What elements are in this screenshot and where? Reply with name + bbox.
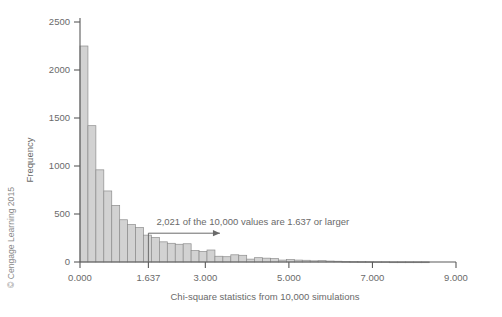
histogram-bar — [144, 235, 152, 262]
x-axis-title: Chi-square statistics from 10,000 simula… — [170, 291, 359, 302]
histogram-bar — [223, 257, 231, 262]
histogram-bar — [207, 250, 215, 262]
y-axis-title: Frequency — [24, 137, 35, 182]
histogram-bar — [120, 220, 128, 262]
histogram-bar — [128, 225, 136, 262]
annotation-label: 2,021 of the 10,000 values are 1.637 or … — [156, 216, 349, 227]
histogram-bar — [96, 170, 104, 262]
histogram-bar — [183, 244, 191, 262]
histogram-bar — [175, 244, 183, 262]
histogram-bar — [80, 46, 88, 262]
x-tick-label: 5.000 — [277, 272, 301, 283]
y-tick-label: 2000 — [49, 64, 70, 75]
histogram-bar — [215, 256, 223, 262]
y-tick-label: 2500 — [49, 16, 70, 27]
y-tick-label: 0 — [65, 256, 70, 267]
x-tick-label: 7.000 — [361, 272, 385, 283]
histogram-bar — [136, 227, 144, 262]
histogram-bar — [231, 255, 239, 262]
histogram-bar — [88, 126, 96, 262]
x-tick-label: 1.637 — [136, 272, 160, 283]
annotation-arrowhead — [213, 230, 220, 236]
x-axis-ticks: 0.0001.6373.0005.0007.0009.000 — [68, 262, 468, 283]
histogram-bar — [112, 205, 120, 262]
histogram-bar — [191, 250, 199, 262]
y-tick-label: 1500 — [49, 112, 70, 123]
chi-square-histogram-figure: © Cengage Learning 2015 Frequency Chi-sq… — [0, 0, 502, 317]
histogram-bar — [255, 258, 263, 262]
histogram-bar — [167, 243, 175, 262]
x-tick-label: 3.000 — [193, 272, 217, 283]
y-tick-label: 500 — [54, 208, 70, 219]
chart-svg: © Cengage Learning 2015 Frequency Chi-sq… — [0, 0, 502, 317]
bars-group — [80, 46, 429, 263]
histogram-bar — [263, 258, 271, 262]
histogram-bar — [159, 242, 167, 262]
copyright-credit: © Cengage Learning 2015 — [6, 187, 16, 288]
y-axis-ticks: 05001000150020002500 — [49, 16, 80, 267]
histogram-bar — [239, 255, 247, 262]
y-tick-label: 1000 — [49, 160, 70, 171]
histogram-bar — [199, 251, 207, 262]
histogram-bar — [151, 238, 159, 262]
histogram-bar — [104, 191, 112, 262]
x-tick-label: 9.000 — [444, 272, 468, 283]
x-tick-label: 0.000 — [68, 272, 92, 283]
